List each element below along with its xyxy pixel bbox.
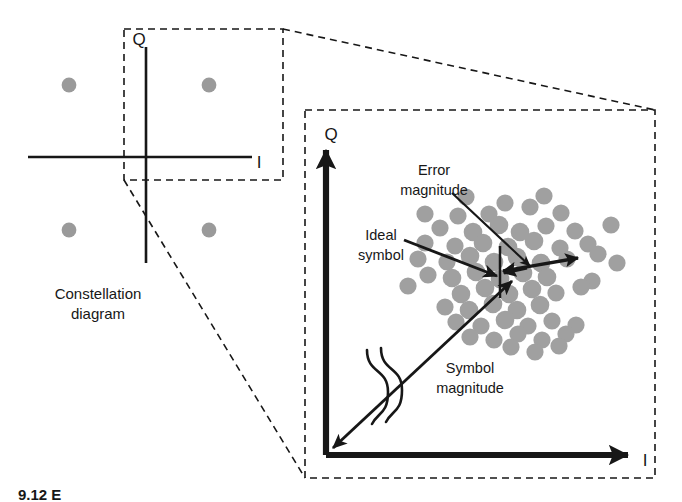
measured-symbol-dot [543, 312, 560, 329]
measured-symbol-dot [572, 278, 589, 295]
evm-figure-svg: Q I Constellation diagram Q I [0, 0, 682, 502]
measured-symbol-dot [608, 254, 625, 271]
measured-symbol-dot [508, 248, 527, 267]
measured-symbol-dot [496, 194, 513, 211]
measured-symbol-dot [476, 279, 495, 298]
measured-symbol-dot [523, 280, 542, 299]
measured-symbol-dot [502, 338, 519, 355]
measured-symbol-dot [431, 219, 448, 236]
canvas-background [0, 0, 682, 502]
measured-symbol-dot [547, 284, 564, 301]
measured-symbol-dot [500, 285, 519, 304]
measured-symbol-dot [537, 217, 554, 234]
measured-symbol-dot [602, 216, 619, 233]
constellation-caption-line1: Constellation [55, 285, 142, 302]
left-q-axis-label: Q [132, 30, 145, 49]
measured-symbol-dot [461, 328, 478, 345]
measured-symbol-dot [449, 207, 466, 224]
constellation-symbol-dot [202, 78, 217, 93]
detail-q-axis-label: Q [324, 125, 337, 144]
measured-symbol-dot [552, 204, 569, 221]
measured-symbol-dot [535, 187, 552, 204]
measured-symbol-dot [485, 331, 502, 348]
measured-symbol-dot [525, 232, 544, 251]
measured-symbol-dot [531, 296, 550, 315]
measured-symbol-dot [496, 311, 515, 330]
measured-symbol-dot [416, 205, 433, 222]
measured-symbol-dot [521, 198, 538, 215]
measured-symbol-dot [589, 245, 606, 262]
error-magnitude-label-line1: Error [418, 162, 450, 178]
measured-symbol-dot [538, 268, 557, 287]
measured-symbol-dot [452, 285, 471, 304]
figure-container: Q I Constellation diagram Q I [0, 0, 682, 502]
measured-symbol-dot [446, 237, 463, 254]
error-magnitude-label-line2: magnitude [400, 182, 468, 198]
measured-symbol-dot [436, 298, 453, 315]
constellation-symbol-dot [62, 223, 77, 238]
constellation-caption-line2: diagram [71, 305, 125, 322]
figure-caption: 9.12 E [18, 486, 61, 502]
measured-symbol-dot [443, 269, 462, 288]
symbol-magnitude-label-line2: magnitude [436, 380, 504, 396]
measured-symbol-dot [419, 266, 436, 283]
left-i-axis-label: I [257, 153, 262, 172]
measured-symbol-dot [566, 222, 583, 239]
measured-symbol-dot [526, 343, 543, 360]
ideal-symbol-label-line1: Ideal [365, 227, 396, 243]
measured-symbol-dot [550, 337, 567, 354]
symbol-magnitude-label-line1: Symbol [446, 360, 494, 376]
constellation-symbol-dot [62, 78, 77, 93]
ideal-symbol-label-line2: symbol [358, 247, 404, 263]
detail-i-axis-label: I [643, 451, 648, 470]
measured-symbol-dot [409, 250, 426, 267]
measured-symbol-dot [399, 277, 416, 294]
constellation-symbol-dot [202, 223, 217, 238]
